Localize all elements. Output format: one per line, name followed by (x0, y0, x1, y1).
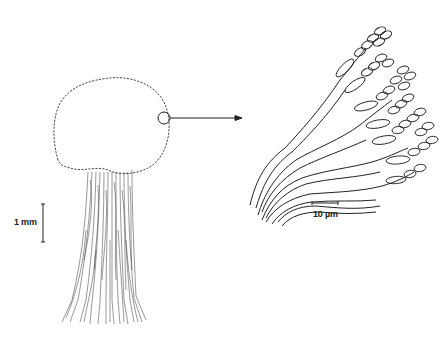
magnifier-circle (158, 112, 170, 124)
hyphae-detail (250, 48, 414, 226)
scale-label-1mm: 1 mm (14, 217, 37, 227)
capitulum-head (54, 78, 169, 174)
scale-bar-1mm (41, 204, 45, 242)
scale-label-10um: 10 µm (313, 209, 338, 219)
illustration-canvas (0, 0, 447, 337)
stipe-fibres (62, 170, 146, 324)
arrow-to-detail (170, 116, 242, 121)
